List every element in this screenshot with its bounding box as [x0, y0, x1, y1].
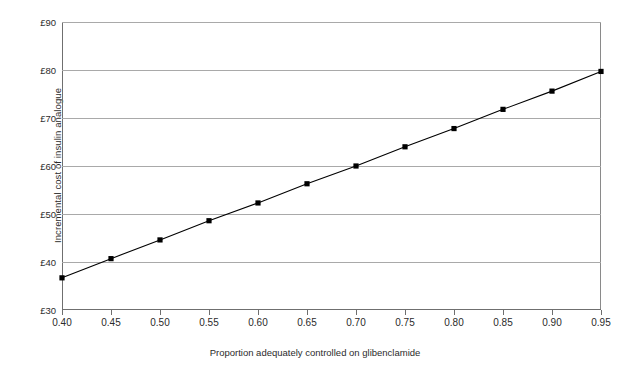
- x-tick-label: 0.70: [331, 317, 381, 328]
- data-point-marker: [59, 275, 64, 280]
- x-tick-mark: [111, 310, 112, 315]
- x-tick-label: 0.60: [233, 317, 283, 328]
- figure-container: Incremental cost of insulin analogue £30…: [0, 0, 630, 386]
- x-tick-mark: [307, 310, 308, 315]
- data-point-marker: [451, 126, 456, 131]
- x-axis-title: Proportion adequately controlled on glib…: [0, 347, 630, 358]
- x-tick-label: 0.55: [184, 317, 234, 328]
- x-tick-label: 0.50: [135, 317, 185, 328]
- x-tick-label: 0.40: [37, 317, 87, 328]
- series-polyline: [62, 71, 601, 277]
- x-tick-label: 0.65: [282, 317, 332, 328]
- data-point-marker: [304, 181, 309, 186]
- data-point-marker: [255, 200, 260, 205]
- x-tick-mark: [552, 310, 553, 315]
- data-point-marker: [402, 144, 407, 149]
- data-point-marker: [206, 218, 211, 223]
- x-tick-label: 0.95: [576, 317, 626, 328]
- data-point-marker: [353, 163, 358, 168]
- y-axis-title: Incremental cost of insulin analogue: [52, 21, 63, 311]
- data-point-marker: [549, 89, 554, 94]
- x-tick-label: 0.85: [478, 317, 528, 328]
- data-point-marker: [598, 69, 603, 74]
- x-tick-label: 0.75: [380, 317, 430, 328]
- x-tick-mark: [454, 310, 455, 315]
- x-tick-label: 0.45: [86, 317, 136, 328]
- x-tick-mark: [601, 310, 602, 315]
- x-tick-mark: [62, 310, 63, 315]
- x-tick-label: 0.90: [527, 317, 577, 328]
- x-tick-mark: [405, 310, 406, 315]
- data-point-marker: [108, 256, 113, 261]
- x-tick-mark: [160, 310, 161, 315]
- data-point-marker: [157, 237, 162, 242]
- data-point-marker: [500, 107, 505, 112]
- plot-area: [62, 22, 601, 310]
- x-tick-mark: [209, 310, 210, 315]
- x-tick-mark: [356, 310, 357, 315]
- x-tick-label: 0.80: [429, 317, 479, 328]
- data-series-line: [62, 22, 601, 310]
- x-tick-mark: [503, 310, 504, 315]
- x-tick-mark: [258, 310, 259, 315]
